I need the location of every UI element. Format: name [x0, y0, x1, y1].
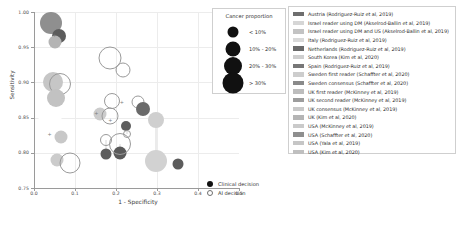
color-legend-swatch	[293, 107, 304, 111]
y-axis-line	[34, 12, 35, 188]
data-point-bubble	[104, 93, 120, 109]
y-axis-tick	[31, 82, 34, 83]
data-point-bubble	[145, 150, 167, 172]
color-legend-label: UK first reader (McKinney et al, 2019)	[308, 89, 398, 95]
y-axis-tick-label: 0.85	[3, 115, 29, 120]
data-point-bubble	[39, 108, 62, 131]
plus-marker-icon: +	[52, 32, 56, 37]
color-legend-item[interactable]: Italy (Rodriguez-Ruiz et al, 2019)	[289, 36, 455, 45]
x-axis-tick-label: 0.3	[147, 191, 167, 196]
size-legend-dot	[226, 42, 241, 57]
size-legend-dot	[228, 27, 239, 38]
size-legend-item: 10% - 20%	[213, 40, 285, 58]
color-legend-swatch	[293, 46, 304, 50]
y-axis-label: Sensitivity	[9, 55, 15, 115]
color-legend-label: UK consensus (McKinney et al, 2019)	[308, 106, 397, 112]
scatter-chart: +++++ Sensitivity 1 - Specificity Cancer…	[0, 0, 458, 232]
color-legend-item[interactable]: Sweden first reader (Schaffter et al, 20…	[289, 70, 455, 79]
size-legend-item: 20% - 30%	[213, 57, 285, 75]
data-point-bubble	[148, 112, 164, 128]
x-axis-label: 1 - Specificity	[78, 199, 198, 205]
size-legend-label: 20% - 30%	[249, 63, 276, 69]
x-axis-tick-label: 0.5	[229, 191, 249, 196]
y-axis-tick-label: 1.00	[3, 10, 29, 15]
color-legend-swatch	[293, 72, 304, 76]
color-legend-label: UK second reader (McKinney et al, 2019)	[308, 97, 406, 103]
data-point-bubble	[109, 133, 131, 155]
color-legend-item[interactable]: USA (Yala et al, 2019)	[289, 139, 455, 148]
color-legend-item[interactable]: Israel reader using DM and US (Akselrod-…	[289, 27, 455, 36]
color-legend-item[interactable]: Sweden consensus (Schaffter et al, 2020)	[289, 79, 455, 88]
data-point-bubble	[47, 89, 65, 107]
color-legend-label: UK (Kim et al, 2020)	[308, 114, 356, 120]
x-axis-tick-label: 0.0	[24, 191, 44, 196]
y-axis-tick	[31, 118, 34, 119]
y-axis-tick	[31, 47, 34, 48]
y-axis-tick	[31, 153, 34, 154]
color-legend-swatch	[293, 12, 304, 16]
size-legend-item: < 10%	[213, 23, 285, 41]
y-axis-tick-label: 0.75	[3, 186, 29, 191]
size-legend-dot	[223, 73, 244, 94]
x-axis-tick-label: 0.4	[188, 191, 208, 196]
color-legend-label: Sweden first reader (Schaffter et al, 20…	[308, 71, 409, 77]
color-legend-item[interactable]: South Korea (Kim et al, 2020)	[289, 53, 455, 62]
y-axis-tick	[31, 12, 34, 13]
shape-legend-dot	[207, 181, 213, 187]
data-point-bubble	[55, 130, 68, 143]
y-axis-tick-label: 0.90	[3, 80, 29, 85]
color-legend-swatch	[293, 124, 304, 128]
grid-line-horizontal	[34, 12, 239, 13]
size-legend-title: Cancer proportion	[213, 13, 285, 19]
color-legend-item[interactable]: USA (McKinney et al, 2019)	[289, 122, 455, 131]
grid-line-horizontal	[34, 47, 239, 48]
plus-marker-icon: +	[108, 118, 112, 123]
color-legend-swatch	[293, 64, 304, 68]
color-legend-item[interactable]: UK first reader (McKinney et al, 2019)	[289, 87, 455, 96]
color-legend-label: USA (McKinney et al, 2019)	[308, 123, 374, 129]
size-legend-label: > 30%	[249, 80, 266, 86]
color-legend-label: USA (Yala et al, 2019)	[308, 140, 360, 146]
grid-line-vertical	[198, 12, 199, 188]
color-legend-item[interactable]: Netherlands (Rodriguez-Ruiz et al, 2019)	[289, 44, 455, 53]
color-legend-swatch	[293, 132, 304, 136]
color-legend-label: Italy (Rodriguez-Ruiz et al, 2019)	[308, 37, 387, 43]
color-legend-swatch	[293, 141, 304, 145]
study-color-legend: Austria (Rodriguez-Ruiz et al, 2019)Isra…	[288, 6, 456, 154]
color-legend-label: Sweden consensus (Schaffter et al, 2020)	[308, 80, 408, 86]
size-legend-label: 10% - 20%	[249, 46, 276, 52]
color-legend-swatch	[293, 29, 304, 33]
y-axis-tick-label: 0.80	[3, 150, 29, 155]
color-legend-swatch	[293, 89, 304, 93]
color-legend-swatch	[293, 98, 304, 102]
color-legend-item[interactable]: UK second reader (McKinney et al, 2019)	[289, 96, 455, 105]
data-point-bubble	[59, 152, 80, 173]
color-legend-swatch	[293, 81, 304, 85]
data-point-bubble	[136, 102, 150, 116]
color-legend-item[interactable]: UK consensus (McKinney et al, 2019)	[289, 105, 455, 114]
color-legend-label: Israel reader using DM (Akselrod-Ballin …	[308, 20, 430, 26]
grid-line-horizontal	[34, 118, 239, 119]
color-legend-item[interactable]: Israel reader using DM (Akselrod-Ballin …	[289, 19, 455, 28]
color-legend-swatch	[293, 115, 304, 119]
x-axis-tick-label: 0.1	[65, 191, 85, 196]
plus-marker-icon: +	[47, 132, 51, 137]
shape-legend-label: Clinical decision	[218, 181, 259, 187]
color-legend-label: Austria (Rodriguez-Ruiz et al, 2019)	[308, 11, 393, 17]
color-legend-item[interactable]: UK (Kim et al, 2020)	[289, 113, 455, 122]
plus-marker-icon: +	[120, 100, 124, 105]
color-legend-item[interactable]: USA (Schaffter et al, 2020)	[289, 130, 455, 139]
shape-legend-item[interactable]: Clinical decision	[203, 179, 281, 188]
size-legend-label: < 10%	[249, 29, 266, 35]
data-point-bubble	[173, 159, 184, 170]
color-legend-label: Spain (Rodriguez-Ruiz et al, 2019)	[308, 63, 390, 69]
color-legend-swatch	[293, 55, 304, 59]
color-legend-label: Netherlands (Rodriguez-Ruiz et al, 2019)	[308, 46, 406, 52]
color-legend-item[interactable]: USA (Kim et al, 2020)	[289, 148, 455, 157]
color-legend-item[interactable]: Spain (Rodriguez-Ruiz et al, 2019)	[289, 62, 455, 71]
color-legend-label: South Korea (Kim et al, 2020)	[308, 54, 379, 60]
size-legend-item: > 30%	[213, 74, 285, 92]
color-legend-label: USA (Kim et al, 2020)	[308, 149, 360, 155]
color-legend-item[interactable]: Austria (Rodriguez-Ruiz et al, 2019)	[289, 10, 455, 19]
size-legend: Cancer proportion < 10%10% - 20%20% - 30…	[212, 8, 286, 94]
